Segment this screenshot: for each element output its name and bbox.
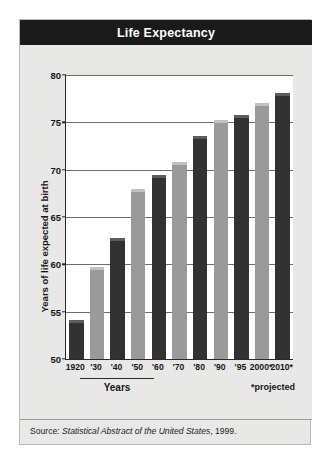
bar-body xyxy=(234,118,248,359)
chart-card: Life Expectancy Years of life expected a… xyxy=(19,19,311,445)
screenshot-root: Life Expectancy Years of life expected a… xyxy=(0,0,330,468)
bar xyxy=(131,189,145,359)
bar xyxy=(255,103,269,359)
plot-area: 50556065707580 xyxy=(65,75,293,360)
bar xyxy=(110,238,124,359)
x-tick-label: '80 xyxy=(193,362,205,372)
x-axis-title-rule xyxy=(80,378,154,379)
x-tick-label: '50 xyxy=(131,362,143,372)
source-title: Statistical Abstract of the United State… xyxy=(62,426,210,436)
x-tick-label: '40 xyxy=(111,362,123,372)
bar-body xyxy=(90,270,104,359)
x-tick-label: 2000* xyxy=(250,362,272,372)
bar xyxy=(152,175,166,359)
y-tick-label: 80 xyxy=(50,70,61,81)
footer-divider xyxy=(20,419,312,420)
y-tick-label: 55 xyxy=(50,306,61,317)
x-axis-title: Years xyxy=(80,382,154,393)
bar-body xyxy=(214,123,228,359)
y-tick-label: 50 xyxy=(50,354,61,365)
x-tick-label: '70 xyxy=(173,362,185,372)
x-tick-label: '95 xyxy=(235,362,247,372)
x-tick-label: 1920 xyxy=(66,362,85,372)
x-tick-label: '30 xyxy=(90,362,102,372)
y-tick-label: 65 xyxy=(50,212,61,223)
bar-series xyxy=(66,75,293,359)
page-title: Life Expectancy xyxy=(117,26,215,40)
x-tick-label: '60 xyxy=(152,362,164,372)
bar xyxy=(69,320,83,359)
bar xyxy=(193,136,207,359)
bar xyxy=(275,93,289,359)
bar-body xyxy=(110,241,124,359)
chart-title-bar: Life Expectancy xyxy=(20,20,312,45)
bar-body xyxy=(131,192,145,359)
bar-body xyxy=(172,165,186,359)
y-tick-label: 75 xyxy=(50,117,61,128)
source-prefix: Source: xyxy=(30,426,62,436)
bar xyxy=(234,115,248,359)
x-axis-title-group: Years xyxy=(80,378,154,393)
x-tick-label: 2010* xyxy=(270,362,292,372)
y-tick-label: 60 xyxy=(50,259,61,270)
projected-note: *projected xyxy=(251,382,295,392)
bar-body xyxy=(255,106,269,359)
x-tick-label: '90 xyxy=(214,362,226,372)
y-tick-label: 70 xyxy=(50,164,61,175)
y-axis-title: Years of life expected at birth xyxy=(39,172,50,322)
source-suffix: , 1999. xyxy=(210,426,236,436)
bar-body xyxy=(193,139,207,359)
source-line: Source: Statistical Abstract of the Unit… xyxy=(30,426,237,436)
bar-body xyxy=(275,96,289,359)
bar-body xyxy=(152,178,166,359)
x-axis-tick-labels: 1920'30'40'50'60'70'80'90'952000*2010* xyxy=(65,362,293,376)
bar xyxy=(90,267,104,359)
chart-region: Years of life expected at birth 50556065… xyxy=(20,45,312,419)
bar xyxy=(172,162,186,359)
bar-body xyxy=(69,323,83,359)
bar xyxy=(214,120,228,359)
